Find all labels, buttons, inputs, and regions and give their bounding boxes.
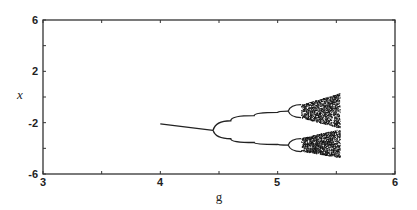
x-tick-label: 6 xyxy=(392,176,398,188)
y-tick-label: 2 xyxy=(32,65,38,77)
x-tick-label: 4 xyxy=(157,176,164,188)
x-tick-label: 3 xyxy=(40,176,46,188)
x-tick-label: 5 xyxy=(274,176,280,188)
bifurcation-data xyxy=(160,93,340,158)
y-tick-label: -6 xyxy=(28,168,38,180)
x-axis-label: g xyxy=(216,189,223,204)
axis-ticks xyxy=(43,20,395,174)
bifurcation-chart: 6 2 -2 -6 3 4 5 6 x g xyxy=(0,0,417,210)
y-tick-label: 6 xyxy=(32,14,38,26)
plot-frame xyxy=(43,20,395,174)
y-tick-label: -2 xyxy=(28,117,38,129)
y-axis-label: x xyxy=(16,87,23,102)
